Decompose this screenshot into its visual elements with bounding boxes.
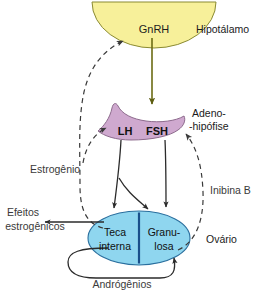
fsh-label: FSH	[146, 125, 168, 137]
inhibin-b-label: Inibina B	[210, 184, 251, 196]
lh-to-theca-arrow	[114, 140, 121, 208]
estrogenic-effects-label-line2: estrogênicos	[5, 220, 65, 232]
androgens-label: Andrógênios	[93, 278, 152, 290]
pituitary-label-line1: Adeno-	[192, 107, 226, 119]
granulosa-label-line1: Granu-	[148, 226, 181, 238]
pituitary-shape	[98, 104, 185, 140]
estrogenic-effects-label-line1: Efeitos	[7, 206, 39, 218]
endocrine-axis-diagram: GnRH Hipotálamo LH FSH Adeno- -hipófise …	[0, 0, 266, 292]
theca-interna-label-line1: Teca	[104, 226, 126, 238]
ovary-label: Ovário	[206, 233, 237, 245]
granulosa-label-line2: losa	[154, 240, 173, 252]
hypothalamus-label: Hipotálamo	[196, 23, 249, 35]
theca-interna-label-line2: interna	[99, 240, 131, 252]
pituitary-label-line2: -hipófise	[189, 120, 229, 132]
diagram-canvas: GnRH Hipotálamo LH FSH Adeno- -hipófise …	[0, 0, 266, 292]
estrogen-label: Estrogênio	[30, 163, 80, 175]
lh-branch-to-granulosa-arrow	[119, 178, 148, 209]
lh-label: LH	[118, 125, 133, 137]
ovary-shape	[88, 211, 190, 265]
fsh-to-granulosa-arrow	[165, 140, 166, 207]
gnrh-label: GnRH	[139, 23, 170, 35]
